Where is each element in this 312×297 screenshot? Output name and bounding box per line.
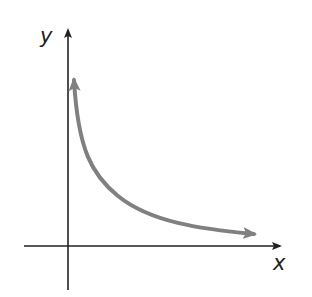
graph: y x: [0, 0, 312, 297]
x-axis-label: x: [272, 251, 286, 275]
curve-end-arrow-icon: [74, 80, 254, 234]
curve: [74, 80, 254, 234]
y-axis-label: y: [39, 24, 53, 48]
